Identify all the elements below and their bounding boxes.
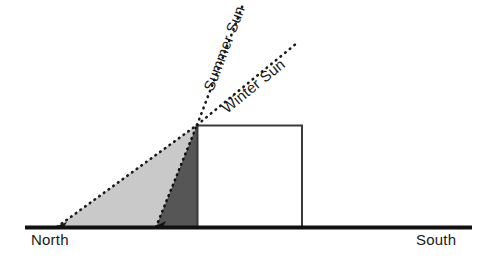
diagram-canvas: Summer Sun Winter Sun xyxy=(0,0,495,261)
summer-sun-label: Summer Sun xyxy=(200,3,248,93)
south-label: South xyxy=(416,231,456,248)
winter-sun-label: Winter Sun xyxy=(218,55,288,116)
building-rect xyxy=(198,126,303,228)
sun-shadow-diagram: Summer Sun Winter Sun North South xyxy=(0,0,495,261)
north-label: North xyxy=(31,231,69,248)
